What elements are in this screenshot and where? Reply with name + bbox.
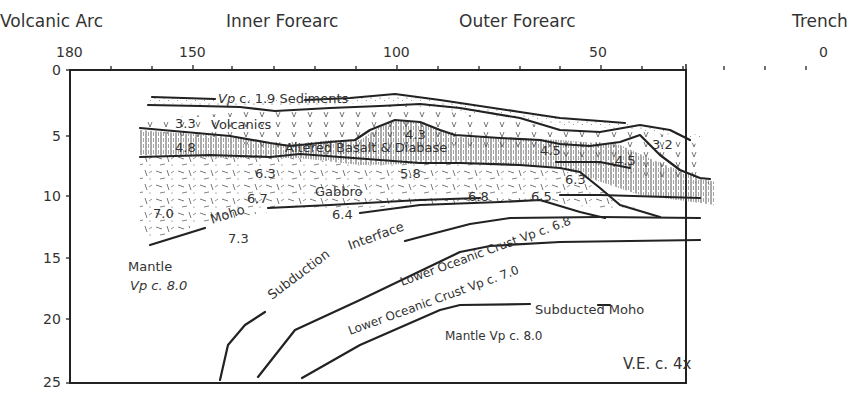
- label-interface: Interface: [346, 219, 406, 253]
- region-outer-forearc: Outer Forearc: [459, 11, 576, 31]
- velocity-3-2: 3.2: [652, 137, 673, 152]
- velocity-7-3: 7.3: [228, 231, 249, 246]
- label-subducted-mantle: Mantle Vp c. 8.0: [445, 329, 543, 343]
- y-tick-25: 25: [43, 374, 61, 390]
- velocity-3-3: 3.3: [175, 116, 196, 131]
- label-subducted-moho: Subducted Moho: [535, 302, 644, 317]
- label-gabbro: Gabbro: [315, 184, 363, 199]
- y-tick-5: 5: [52, 128, 61, 144]
- label-mantle: Mantle: [128, 259, 172, 274]
- region-volcanic-arc: Volcanic Arc: [0, 11, 103, 31]
- region-trench: Trench: [791, 11, 848, 31]
- y-axis: 0 5 10 15 20 25: [43, 62, 70, 390]
- velocity-5-8: 5.8: [400, 166, 421, 181]
- velocity-4-3: 4.3: [405, 127, 426, 142]
- x-tick-150: 150: [179, 44, 206, 60]
- forearc-cross-section-diagram: Volcanic Arc Inner Forearc Outer Forearc…: [0, 0, 854, 414]
- velocity-4-8: 4.8: [175, 140, 196, 155]
- y-tick-10: 10: [43, 188, 61, 204]
- x-axis: 180 150 100 50 0: [56, 44, 828, 70]
- velocity-7-0: 7.0: [153, 206, 174, 221]
- velocity-6-8: 6.8: [468, 189, 489, 204]
- x-tick-0: 0: [819, 44, 828, 60]
- x-tick-180: 180: [56, 44, 83, 60]
- x-tick-100: 100: [383, 44, 410, 60]
- region-labels: Volcanic Arc Inner Forearc Outer Forearc…: [0, 11, 848, 31]
- y-tick-15: 15: [43, 250, 61, 266]
- label-volcanics: Volcanics: [211, 117, 272, 132]
- x-tick-50: 50: [589, 44, 607, 60]
- label-altered-basalt: Altered Basalt & Diabase: [285, 140, 447, 155]
- velocity-6-5: 6.5: [531, 189, 552, 204]
- label-mantle-vp: Vp c. 8.0: [130, 278, 187, 293]
- region-inner-forearc: Inner Forearc: [226, 11, 338, 31]
- y-tick-20: 20: [43, 311, 61, 327]
- velocity-6-3-a: 6.3: [255, 166, 276, 181]
- velocity-4-5-a: 4.5: [540, 143, 561, 158]
- velocity-6-4: 6.4: [332, 207, 353, 222]
- velocity-6-3-b: 6.3: [565, 172, 586, 187]
- velocity-6-7: 6.7: [247, 191, 268, 206]
- label-subduction: Subduction: [265, 246, 333, 302]
- vertical-exaggeration-note: V.E. c. 4x: [623, 355, 691, 373]
- velocity-4-5-b: 4.5: [615, 153, 636, 168]
- y-tick-0: 0: [52, 62, 61, 78]
- label-sediments: Vp c. 1.9 Sediments: [218, 91, 349, 106]
- diagram-canvas: Volcanic Arc Inner Forearc Outer Forearc…: [0, 0, 854, 414]
